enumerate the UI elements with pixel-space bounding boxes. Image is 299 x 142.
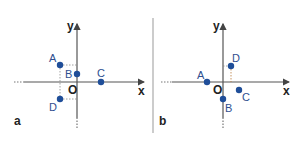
x-axis-label: x <box>283 84 290 98</box>
panel-b: A B C D y x O b <box>159 19 290 128</box>
coordinate-diagrams: A B C D y x O a A B C D y x O b <box>0 0 299 142</box>
panel-label-b: b <box>159 114 166 128</box>
point-b-label: B <box>225 102 232 114</box>
origin-label: O <box>213 83 222 97</box>
point-c-label: C <box>97 67 105 79</box>
point-a-label: A <box>197 69 205 81</box>
point-c-label: C <box>242 91 250 103</box>
point-c <box>98 79 104 85</box>
point-a <box>204 79 210 85</box>
x-axis-label: x <box>138 84 145 98</box>
point-b <box>74 71 80 77</box>
panel-label-a: a <box>14 114 21 128</box>
point-d-label: D <box>232 52 240 64</box>
y-axis-label: y <box>213 19 220 33</box>
y-axis-label: y <box>67 19 74 33</box>
point-d <box>57 96 63 102</box>
point-b-label: B <box>65 68 72 80</box>
panel-a: A B C D y x O a <box>14 19 145 128</box>
point-a-label: A <box>49 52 57 64</box>
point-a <box>57 62 63 68</box>
origin-label: O <box>68 83 77 97</box>
point-d-label: D <box>49 101 57 113</box>
